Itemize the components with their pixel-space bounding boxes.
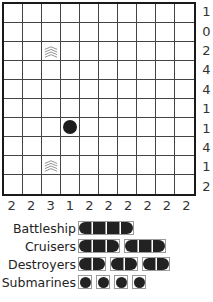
grid-cell-r6-c5[interactable] — [99, 118, 118, 137]
grid-cell-r1-c2[interactable] — [42, 23, 61, 42]
grid-cell-r2-c2[interactable] — [42, 42, 61, 61]
grid-cell-r1-c0[interactable] — [4, 23, 23, 42]
grid-cell-r3-c6[interactable] — [118, 61, 137, 80]
grid-cell-r2-c8[interactable] — [156, 42, 175, 61]
grid-cell-r1-c3[interactable] — [61, 23, 80, 42]
grid-cell-r9-c9[interactable] — [175, 175, 194, 194]
grid-cell-r8-c7[interactable] — [137, 156, 156, 175]
grid-cell-r7-c2[interactable] — [42, 137, 61, 156]
grid-cell-r9-c2[interactable] — [42, 175, 61, 194]
grid-cell-r7-c0[interactable] — [4, 137, 23, 156]
grid-cell-r4-c4[interactable] — [80, 80, 99, 99]
grid-cell-r6-c6[interactable] — [118, 118, 137, 137]
grid-cell-r1-c6[interactable] — [118, 23, 137, 42]
grid-cell-r3-c9[interactable] — [175, 61, 194, 80]
grid-cell-r8-c0[interactable] — [4, 156, 23, 175]
grid-cell-r1-c8[interactable] — [156, 23, 175, 42]
grid-cell-r8-c3[interactable] — [61, 156, 80, 175]
grid-cell-r3-c5[interactable] — [99, 61, 118, 80]
grid-cell-r8-c6[interactable] — [118, 156, 137, 175]
grid-cell-r3-c8[interactable] — [156, 61, 175, 80]
grid-cell-r1-c7[interactable] — [137, 23, 156, 42]
grid-cell-r7-c9[interactable] — [175, 137, 194, 156]
grid-cell-r4-c0[interactable] — [4, 80, 23, 99]
grid-cell-r2-c0[interactable] — [4, 42, 23, 61]
grid-cell-r7-c4[interactable] — [80, 137, 99, 156]
grid-cell-r5-c5[interactable] — [99, 99, 118, 118]
grid-cell-r6-c7[interactable] — [137, 118, 156, 137]
grid-cell-r9-c6[interactable] — [118, 175, 137, 194]
grid-cell-r3-c4[interactable] — [80, 61, 99, 80]
grid-cell-r0-c7[interactable] — [137, 4, 156, 23]
grid-cell-r8-c4[interactable] — [80, 156, 99, 175]
grid-cell-r5-c0[interactable] — [4, 99, 23, 118]
grid-cell-r7-c3[interactable] — [61, 137, 80, 156]
grid-cell-r7-c5[interactable] — [99, 137, 118, 156]
grid-cell-r0-c8[interactable] — [156, 4, 175, 23]
grid-cell-r3-c2[interactable] — [42, 61, 61, 80]
grid-cell-r7-c6[interactable] — [118, 137, 137, 156]
grid-cell-r2-c4[interactable] — [80, 42, 99, 61]
grid-cell-r8-c8[interactable] — [156, 156, 175, 175]
grid-cell-r2-c5[interactable] — [99, 42, 118, 61]
grid-cell-r7-c7[interactable] — [137, 137, 156, 156]
grid-cell-r2-c7[interactable] — [137, 42, 156, 61]
grid-cell-r0-c1[interactable] — [23, 4, 42, 23]
grid-cell-r9-c5[interactable] — [99, 175, 118, 194]
grid-cell-r7-c8[interactable] — [156, 137, 175, 156]
grid-cell-r1-c5[interactable] — [99, 23, 118, 42]
grid-cell-r8-c9[interactable] — [175, 156, 194, 175]
grid-cell-r5-c4[interactable] — [80, 99, 99, 118]
grid-cell-r0-c0[interactable] — [4, 4, 23, 23]
grid-cell-r4-c8[interactable] — [156, 80, 175, 99]
grid-cell-r6-c4[interactable] — [80, 118, 99, 137]
grid-cell-r1-c4[interactable] — [80, 23, 99, 42]
grid-cell-r2-c3[interactable] — [61, 42, 80, 61]
grid-cell-r5-c6[interactable] — [118, 99, 137, 118]
grid-cell-r3-c7[interactable] — [137, 61, 156, 80]
grid-cell-r4-c5[interactable] — [99, 80, 118, 99]
grid-cell-r9-c1[interactable] — [23, 175, 42, 194]
grid-cell-r3-c0[interactable] — [4, 61, 23, 80]
grid-cell-r1-c1[interactable] — [23, 23, 42, 42]
grid-cell-r4-c3[interactable] — [61, 80, 80, 99]
grid-cell-r9-c0[interactable] — [4, 175, 23, 194]
grid-cell-r3-c1[interactable] — [23, 61, 42, 80]
grid-cell-r0-c5[interactable] — [99, 4, 118, 23]
grid-cell-r7-c1[interactable] — [23, 137, 42, 156]
grid-cell-r6-c8[interactable] — [156, 118, 175, 137]
grid-cell-r8-c2[interactable] — [42, 156, 61, 175]
grid-cell-r5-c3[interactable] — [61, 99, 80, 118]
grid-cell-r5-c7[interactable] — [137, 99, 156, 118]
grid-cell-r5-c1[interactable] — [23, 99, 42, 118]
grid-cell-r4-c1[interactable] — [23, 80, 42, 99]
grid-cell-r5-c9[interactable] — [175, 99, 194, 118]
grid-cell-r6-c0[interactable] — [4, 118, 23, 137]
grid-cell-r4-c6[interactable] — [118, 80, 137, 99]
grid-cell-r6-c2[interactable] — [42, 118, 61, 137]
grid-cell-r0-c2[interactable] — [42, 4, 61, 23]
grid-cell-r4-c7[interactable] — [137, 80, 156, 99]
grid-cell-r9-c7[interactable] — [137, 175, 156, 194]
grid-cell-r1-c9[interactable] — [175, 23, 194, 42]
grid-cell-r9-c3[interactable] — [61, 175, 80, 194]
grid-cell-r6-c3[interactable] — [61, 118, 80, 137]
grid-cell-r2-c6[interactable] — [118, 42, 137, 61]
grid-cell-r0-c3[interactable] — [61, 4, 80, 23]
grid-cell-r0-c9[interactable] — [175, 4, 194, 23]
grid-cell-r9-c8[interactable] — [156, 175, 175, 194]
grid-cell-r0-c4[interactable] — [80, 4, 99, 23]
grid-cell-r8-c1[interactable] — [23, 156, 42, 175]
grid-cell-r6-c1[interactable] — [23, 118, 42, 137]
grid-cell-r9-c4[interactable] — [80, 175, 99, 194]
grid-cell-r2-c9[interactable] — [175, 42, 194, 61]
grid-cell-r2-c1[interactable] — [23, 42, 42, 61]
grid-cell-r6-c9[interactable] — [175, 118, 194, 137]
grid-cell-r4-c9[interactable] — [175, 80, 194, 99]
grid-cell-r8-c5[interactable] — [99, 156, 118, 175]
grid-cell-r4-c2[interactable] — [42, 80, 61, 99]
grid-cell-r0-c6[interactable] — [118, 4, 137, 23]
grid-cell-r5-c2[interactable] — [42, 99, 61, 118]
grid-cell-r3-c3[interactable] — [61, 61, 80, 80]
grid-cell-r5-c8[interactable] — [156, 99, 175, 118]
